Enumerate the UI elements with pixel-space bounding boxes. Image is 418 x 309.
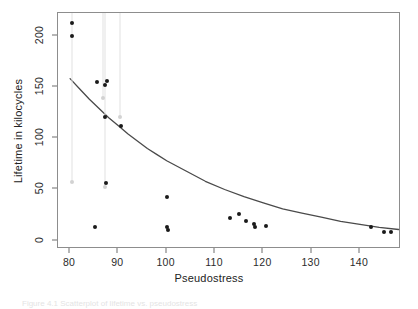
data-point bbox=[165, 195, 169, 199]
x-axis-tick bbox=[214, 248, 215, 253]
x-axis-tick bbox=[165, 248, 166, 253]
x-axis-tick-label: 130 bbox=[301, 256, 319, 268]
censoring-line bbox=[72, 13, 73, 182]
figure-page: 8090100110120130140050100150200 Pseudost… bbox=[0, 0, 418, 309]
x-axis-tick bbox=[117, 248, 118, 253]
x-axis-tick-label: 100 bbox=[156, 256, 174, 268]
x-axis-tick bbox=[358, 248, 359, 253]
y-axis-tick bbox=[52, 34, 57, 35]
x-axis-tick-label: 110 bbox=[205, 256, 223, 268]
data-point bbox=[105, 79, 109, 83]
data-point bbox=[237, 212, 241, 216]
data-point bbox=[119, 124, 123, 128]
y-axis-tick bbox=[52, 85, 57, 86]
censored-point bbox=[118, 115, 122, 119]
censoring-line bbox=[120, 13, 121, 117]
data-point bbox=[70, 21, 74, 25]
y-axis-tick bbox=[52, 239, 57, 240]
data-point bbox=[244, 219, 248, 223]
data-point bbox=[70, 34, 74, 38]
x-axis-label: Pseudostress bbox=[0, 272, 418, 284]
y-axis-tick-label: 0 bbox=[33, 230, 45, 250]
y-axis-tick-label: 100 bbox=[33, 127, 45, 147]
y-axis-tick bbox=[52, 137, 57, 138]
x-axis-tick bbox=[310, 248, 311, 253]
censored-point bbox=[70, 180, 74, 184]
data-point bbox=[95, 80, 99, 84]
x-axis-tick bbox=[262, 248, 263, 253]
data-point bbox=[369, 225, 373, 229]
x-axis-tick-label: 80 bbox=[63, 256, 75, 268]
y-axis-tick-label: 50 bbox=[33, 178, 45, 198]
fitted-curve bbox=[58, 13, 401, 249]
censored-point bbox=[101, 96, 105, 100]
y-axis-label: Lifetime in kilocycles bbox=[12, 51, 24, 211]
data-point bbox=[103, 115, 107, 119]
data-point bbox=[103, 83, 107, 87]
censoring-line bbox=[104, 13, 105, 187]
data-point bbox=[93, 225, 97, 229]
y-axis-tick bbox=[52, 188, 57, 189]
data-point bbox=[228, 216, 232, 220]
x-axis-tick-label: 140 bbox=[350, 256, 368, 268]
figure-caption: Figure 4.1 Scatterplot of lifetime vs. p… bbox=[22, 299, 402, 309]
x-axis-tick-label: 120 bbox=[253, 256, 271, 268]
y-axis-tick-label: 150 bbox=[33, 76, 45, 96]
data-point bbox=[166, 228, 170, 232]
data-point bbox=[253, 225, 257, 229]
data-point bbox=[389, 230, 393, 234]
y-axis-tick-label: 200 bbox=[33, 25, 45, 45]
censored-point bbox=[103, 185, 107, 189]
x-axis-tick-label: 90 bbox=[111, 256, 123, 268]
data-point bbox=[264, 224, 268, 228]
x-axis-tick bbox=[69, 248, 70, 253]
plot-area bbox=[57, 12, 400, 248]
data-point bbox=[382, 230, 386, 234]
